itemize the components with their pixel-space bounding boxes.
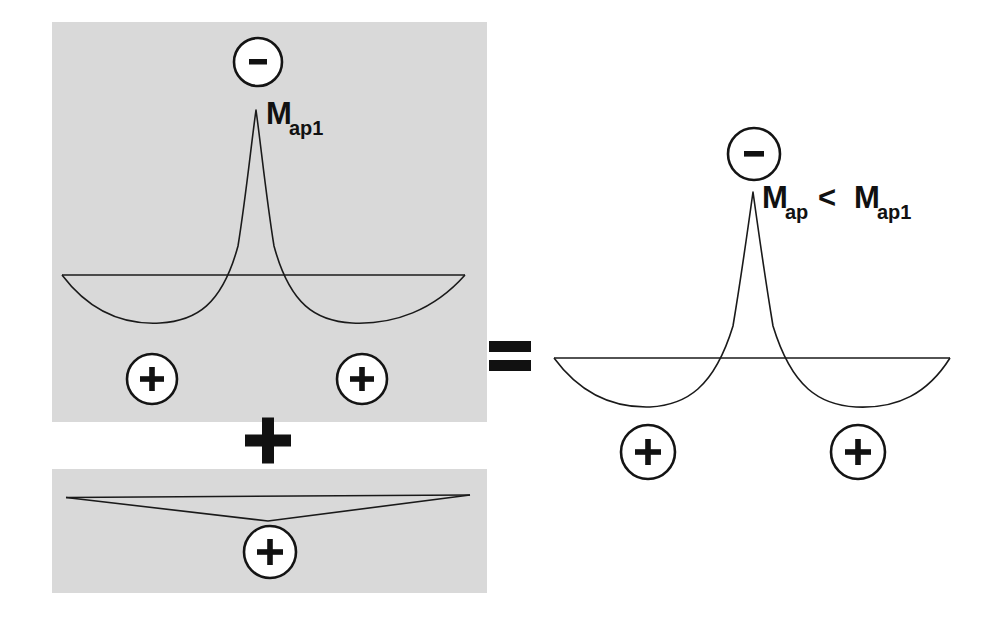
panel-sharp-peak: M ap1	[52, 22, 487, 422]
marker-plus-right-right-panel	[831, 425, 885, 479]
label-map1-main-2: M	[854, 180, 880, 215]
label-map-main-1: M	[762, 180, 788, 215]
panel-broad-trough	[52, 469, 487, 593]
panel-result: M ap < M ap1	[554, 128, 950, 479]
equals-operator-icon	[489, 341, 531, 352]
diagram-canvas: M ap1	[0, 0, 994, 622]
plus-sign-icon	[359, 367, 365, 391]
plus-operator-icon	[262, 418, 274, 464]
equals-operator-icon	[489, 360, 531, 371]
plus-sign-icon	[855, 439, 861, 465]
label-map-lt-map1: M ap < M ap1	[762, 180, 911, 223]
plus-sign-icon	[149, 367, 155, 391]
minus-sign-icon	[249, 59, 267, 65]
marker-plus-bottom-panel	[244, 526, 296, 578]
marker-plus-right-top-panel	[337, 354, 387, 404]
plus-operator-symbol	[245, 418, 291, 464]
label-map1-main: M	[266, 96, 292, 131]
label-map1-sub-2: ap1	[877, 201, 911, 223]
equals-operator-symbol	[489, 341, 531, 371]
curve-resultant-antiphase-peak	[554, 192, 950, 407]
marker-plus-left-right-panel	[621, 425, 675, 479]
figure-root: M ap1	[0, 0, 994, 622]
label-relation-operator: <	[818, 180, 836, 215]
minus-sign-icon	[744, 151, 764, 157]
plus-sign-icon	[267, 539, 273, 565]
label-map1-sub: ap1	[289, 117, 323, 139]
marker-plus-left-top-panel	[127, 354, 177, 404]
plus-sign-icon	[645, 439, 651, 465]
marker-minus-top-left	[234, 38, 282, 86]
marker-minus-right-panel	[728, 128, 780, 180]
label-map-sub-1: ap	[785, 201, 808, 223]
